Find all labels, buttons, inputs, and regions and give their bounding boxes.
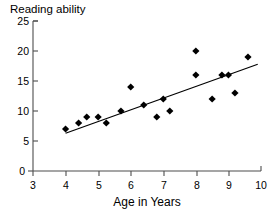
data-point <box>225 71 232 78</box>
data-point <box>75 119 82 126</box>
data-point <box>95 113 102 120</box>
data-points-group <box>62 47 252 132</box>
data-point <box>192 47 199 54</box>
x-axis-ticks <box>33 171 229 176</box>
data-point <box>160 95 167 102</box>
y-tick-label-10: 10 <box>17 105 29 117</box>
x-tick-label-5: 5 <box>96 179 102 191</box>
data-point <box>103 119 110 126</box>
y-tick-label-20: 20 <box>17 45 29 57</box>
data-point <box>192 71 199 78</box>
x-axis-label: Age in Years <box>113 195 180 209</box>
data-point <box>231 89 238 96</box>
y-tick-label-25: 25 <box>17 15 29 27</box>
x-axis-tick-labels: 3 4 5 6 7 8 9 10 <box>30 179 267 191</box>
y-tick-label-5: 5 <box>23 135 29 147</box>
x-tick-label-4: 4 <box>63 179 69 191</box>
x-tick-label-7: 7 <box>161 179 167 191</box>
data-point <box>209 95 216 102</box>
data-point <box>127 83 134 90</box>
data-point <box>83 113 90 120</box>
scatter-plot-figure: Reading ability 25 20 15 10 5 0 <box>0 0 276 212</box>
data-point <box>153 113 160 120</box>
data-point <box>117 107 124 114</box>
x-tick-label-10: 10 <box>255 179 267 191</box>
x-tick-label-3: 3 <box>30 179 36 191</box>
data-point <box>166 107 173 114</box>
data-point <box>244 53 251 60</box>
x-tick-label-6: 6 <box>128 179 134 191</box>
y-axis-tick-labels: 25 20 15 10 5 0 <box>17 15 29 177</box>
y-tick-label-0: 0 <box>19 165 25 177</box>
data-point <box>62 125 69 132</box>
plot-area: 25 20 15 10 5 0 3 4 5 6 7 8 9 10 <box>0 0 276 212</box>
x-tick-label-8: 8 <box>194 179 200 191</box>
y-tick-label-15: 15 <box>17 75 29 87</box>
x-tick-label-9: 9 <box>226 179 232 191</box>
data-point <box>140 101 147 108</box>
